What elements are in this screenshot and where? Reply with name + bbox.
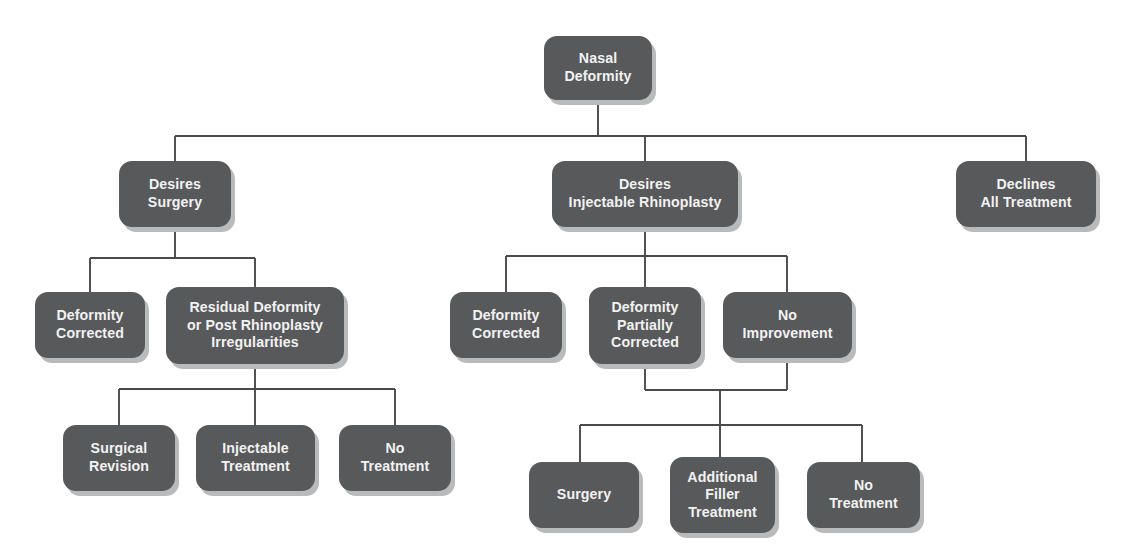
node-nasal-deformity[interactable]: NasalDeformity [544, 36, 656, 105]
node-label: InjectableTreatment [221, 440, 290, 474]
node-additional-filler-treatment[interactable]: AdditionalFillerTreatment [670, 457, 779, 538]
node-no-improvement[interactable]: NoImprovement [723, 292, 856, 363]
node-no-treatment-left[interactable]: NoTreatment [339, 425, 455, 496]
flowchart-diagram: NasalDeformityDesiresSurgeryDesiresInjec… [0, 0, 1121, 549]
node-label: DesiresSurgery [148, 176, 202, 210]
node-label: DeformityCorrected [56, 307, 124, 341]
node-injectable-treatment[interactable]: InjectableTreatment [196, 425, 319, 496]
node-desires-surgery[interactable]: DesiresSurgery [119, 161, 235, 232]
node-no-treatment-right[interactable]: NoTreatment [807, 462, 924, 533]
node-label: SurgicalRevision [89, 440, 149, 474]
node-deformity-partially-corrected[interactable]: DeformityPartiallyCorrected [589, 287, 705, 369]
flowchart-canvas: NasalDeformityDesiresSurgeryDesiresInjec… [0, 0, 1121, 549]
connectors-layer [90, 100, 1026, 462]
connector-surgery-branch [90, 227, 255, 292]
node-desires-injectable-rhinoplasty[interactable]: DesiresInjectable Rhinoplasty [552, 161, 742, 232]
node-label: Surgery [557, 486, 611, 502]
connector-root-to-level1 [175, 100, 1026, 161]
node-declines-all-treatment[interactable]: DeclinesAll Treatment [956, 161, 1100, 232]
node-deformity-corrected-injectable[interactable]: DeformityCorrected [450, 292, 566, 363]
node-label: DeformityPartiallyCorrected [611, 299, 679, 350]
connector-residual-branch [119, 364, 395, 425]
node-label: DeformityCorrected [472, 307, 540, 341]
node-surgical-revision[interactable]: SurgicalRevision [63, 425, 179, 496]
connector-injectable-branch [506, 227, 787, 292]
node-surgery[interactable]: Surgery [529, 462, 643, 533]
node-residual-deformity[interactable]: Residual Deformityor Post RhinoplastyIrr… [166, 287, 348, 369]
nodes-layer: NasalDeformityDesiresSurgeryDesiresInjec… [35, 36, 1100, 538]
node-deformity-corrected-surgery[interactable]: DeformityCorrected [35, 292, 149, 363]
connector-outcomes-branch [580, 425, 862, 462]
